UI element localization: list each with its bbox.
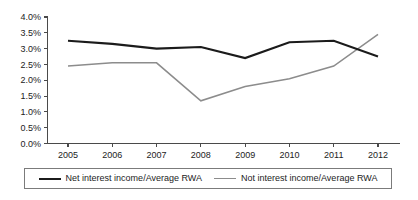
y-tick-label: 2.0% xyxy=(20,75,41,85)
y-tick-labels: 0.0%0.5%1.0%1.5%2.0%2.5%3.0%3.5%4.0% xyxy=(20,12,41,149)
y-tick-label: 0.5% xyxy=(20,123,41,133)
y-tick-label: 2.5% xyxy=(20,60,41,70)
x-tick-label: 2008 xyxy=(191,150,211,160)
x-tick-labels: 20052006200720082009201020112012 xyxy=(58,150,388,160)
line-chart-svg: 0.0%0.5%1.0%1.5%2.0%2.5%3.0%3.5%4.0% 200… xyxy=(0,0,418,162)
y-tick-label: 4.0% xyxy=(20,12,41,22)
x-tick-label: 2009 xyxy=(235,150,255,160)
chart-legend: Net interest income/Average RWA Not inte… xyxy=(24,168,392,189)
y-axis-group: 0.0%0.5%1.0%1.5%2.0%2.5%3.0%3.5%4.0% xyxy=(20,12,47,149)
plot-area: 0.0%0.5%1.0%1.5%2.0%2.5%3.0%3.5%4.0% 200… xyxy=(0,0,418,162)
x-axis-group: 20052006200720082009201020112012 xyxy=(48,144,401,160)
x-tick-label: 2011 xyxy=(324,150,343,160)
series-line-net-interest-income xyxy=(68,41,378,58)
legend-entry-net-interest-income: Net interest income/Average RWA xyxy=(39,174,202,183)
x-tick-label: 2005 xyxy=(58,150,78,160)
x-tick-label: 2007 xyxy=(147,150,167,160)
x-tick-label: 2006 xyxy=(102,150,122,160)
y-tick-label: 3.0% xyxy=(20,44,41,54)
legend-swatch-icon-secondary xyxy=(214,178,236,179)
y-tick-label: 1.5% xyxy=(20,91,41,101)
x-tick-label: 2010 xyxy=(279,150,299,160)
legend-label-net-interest-income: Net interest income/Average RWA xyxy=(66,174,202,183)
y-tick-label: 0.0% xyxy=(20,139,41,149)
chart-container: 0.0%0.5%1.0%1.5%2.0%2.5%3.0%3.5%4.0% 200… xyxy=(0,0,418,200)
x-tick-label: 2012 xyxy=(368,150,388,160)
y-tick-label: 3.5% xyxy=(20,28,41,38)
y-tick-label: 1.0% xyxy=(20,107,41,117)
legend-entry-not-interest-income: Not interest income/Average RWA xyxy=(214,174,377,183)
legend-swatch-icon-primary xyxy=(39,178,61,180)
series-group xyxy=(68,34,378,100)
legend-label-not-interest-income: Not interest income/Average RWA xyxy=(241,174,377,183)
